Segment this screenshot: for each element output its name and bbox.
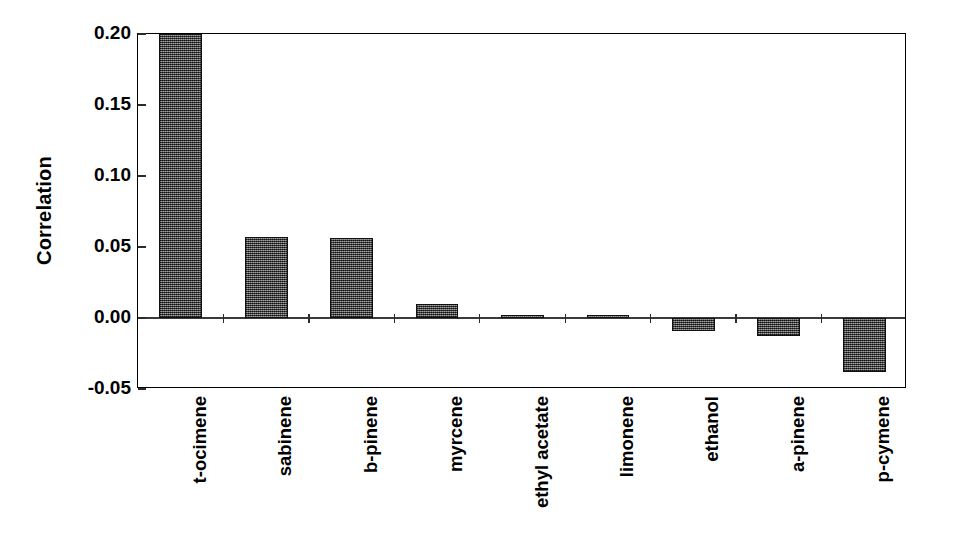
plot-inner [138,34,905,387]
x-axis-tick-label: p-cymene [872,396,894,482]
plot-area [137,33,906,388]
x-axis-tick [735,314,736,323]
x-axis-tick [223,314,224,323]
x-axis-label-slot: t-ocimene [168,396,192,531]
x-axis-label-slot: myrcene [424,396,448,531]
x-axis-label-slot: ethanol [680,396,704,531]
bar-ethanol [672,318,715,331]
x-axis-tick [479,314,480,323]
x-axis-tick-labels: t-ocimenesabineneb-pinenemyrceneethyl ac… [137,396,906,531]
x-axis-tick-label: t-ocimene [189,396,211,483]
bar-chart-figure: Correlation 0.200.150.100.050.00-0.05 t-… [0,0,955,536]
x-axis-label-slot: b-pinene [339,396,363,531]
x-axis-tick [308,314,309,323]
bar-t-ocimene [159,34,202,318]
bar-p-cymene [843,318,886,372]
y-axis-tick-label: 0.20 [94,22,131,44]
y-axis-tick-label: 0.05 [94,235,131,257]
y-axis-title-text: Correlation [33,156,56,265]
y-axis-tick-label: 0.15 [94,93,131,115]
bar-myrcene [416,304,459,318]
x-axis-label-slot: sabinene [253,396,277,531]
x-axis-tick-label: sabinene [274,396,296,476]
y-axis-tick-label: -0.05 [88,377,131,399]
y-axis-tick [138,317,146,318]
x-axis-label-slot: p-cymene [851,396,875,531]
x-axis-tick-label: myrcene [445,396,467,472]
x-axis-tick-label: limonene [616,396,638,477]
x-axis-label-slot: a-pinene [766,396,790,531]
y-axis-tick-label: 0.10 [94,164,131,186]
y-axis-tick [138,104,146,105]
x-axis-tick-label: ethanol [701,396,723,462]
bar-b-pinene [330,238,373,318]
y-axis-tick-labels: 0.200.150.100.050.00-0.05 [55,33,131,388]
y-axis-tick [138,175,146,176]
x-axis-label-slot: ethyl acetate [510,396,534,531]
x-axis-label-slot: limonene [595,396,619,531]
y-axis-tick [138,33,146,34]
bar-a-pinene [757,318,800,336]
x-axis-tick [650,314,651,323]
y-axis-tick [138,388,146,389]
y-axis-tick-label: 0.00 [94,306,131,328]
x-axis-tick [394,314,395,323]
x-axis-tick-label: ethyl acetate [531,396,553,508]
x-axis-tick-label: a-pinene [787,396,809,472]
bar-ethyl-acetate [501,315,544,318]
x-axis-tick [565,314,566,323]
bar-sabinene [245,237,288,318]
x-axis-tick [821,314,822,323]
y-axis-tick [138,246,146,247]
bar-limonene [587,315,630,318]
x-axis-tick-label: b-pinene [360,396,382,473]
